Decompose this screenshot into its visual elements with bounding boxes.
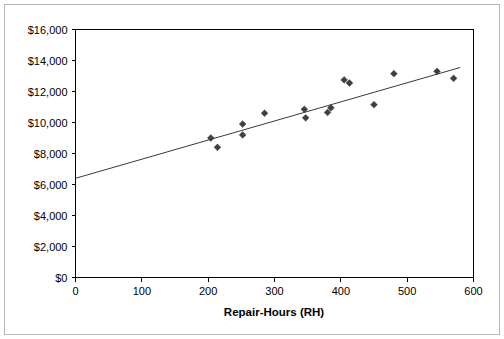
y-axis-tick-label: $16,000 — [28, 24, 68, 36]
data-point — [214, 144, 221, 151]
x-axis-tick-label: 100 — [133, 285, 151, 297]
x-axis-title: Repair-Hours (RH) — [224, 306, 324, 318]
y-axis-tick-label: $6,000 — [34, 179, 68, 191]
x-axis-tick-label: 300 — [265, 285, 283, 297]
y-axis-tick-label: $0 — [55, 272, 67, 284]
y-axis-tick-label: $10,000 — [28, 117, 68, 129]
data-point — [302, 114, 309, 121]
data-point — [391, 70, 398, 77]
x-axis-tick-label: 0 — [72, 285, 78, 297]
x-axis-tick-label: 200 — [199, 285, 217, 297]
plot-frame-group — [76, 30, 474, 278]
x-axis-ticks — [76, 278, 474, 282]
plot-area: $0$2,000$4,000$6,000$8,000$10,000$12,000… — [0, 0, 504, 339]
plot-frame-rect — [76, 30, 474, 278]
x-axis-tick-label: 600 — [464, 285, 482, 297]
y-axis-tick-label: $4,000 — [34, 210, 68, 222]
data-point — [371, 101, 378, 108]
y-axis-tick-label: $8,000 — [34, 148, 68, 160]
data-point — [450, 75, 457, 82]
chart-figure: $0$2,000$4,000$6,000$8,000$10,000$12,000… — [0, 0, 504, 339]
y-axis-tick-label: $12,000 — [28, 86, 68, 98]
data-points-group — [207, 68, 457, 151]
y-axis-tick-labels: $0$2,000$4,000$6,000$8,000$10,000$12,000… — [28, 24, 68, 284]
data-point — [261, 110, 268, 117]
y-axis-tick-label: $14,000 — [28, 55, 68, 67]
y-axis-tick-label: $2,000 — [34, 241, 68, 253]
trend-line-group — [76, 67, 461, 178]
trend-line — [76, 67, 461, 178]
x-axis-tick-label: 400 — [332, 285, 350, 297]
data-point — [239, 132, 246, 139]
y-axis-ticks — [72, 30, 76, 278]
data-point — [239, 121, 246, 128]
x-axis-tick-labels: 0100200300400500600 — [72, 285, 482, 297]
x-axis-tick-label: 500 — [398, 285, 416, 297]
scatter-chart-svg: $0$2,000$4,000$6,000$8,000$10,000$12,000… — [0, 0, 504, 339]
